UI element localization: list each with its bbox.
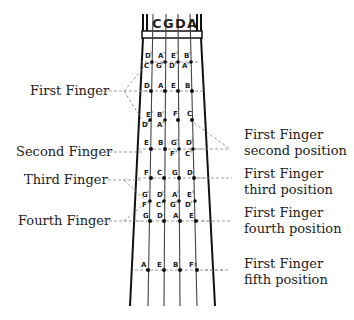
svg-text:♭: ♭ [192,188,194,194]
svg-text:♯: ♯ [147,199,149,205]
svg-text:C: C [187,110,192,118]
svg-text:♯: ♯ [175,148,177,154]
svg-text:♭: ♭ [150,49,152,55]
left-labels: First Finger Second Finger Third Finger … [16,83,113,228]
svg-text:B: B [173,261,178,269]
violin-fingerboard-diagram: C G D A First Finger Second Finger Third… [0,0,354,320]
svg-text:♯: ♯ [147,119,149,125]
string-name-a: A [187,16,197,31]
svg-text:♭: ♭ [177,188,179,194]
row-second-finger: E B G♭ F♯ D♭ C♯ [138,136,205,158]
svg-text:♭: ♭ [189,49,191,55]
svg-text:D: D [187,169,193,177]
row-first-finger: D A E B [140,82,202,93]
label-fourth-position-l1: First Finger [244,205,324,220]
svg-text:♯: ♯ [161,199,163,205]
svg-text:♭: ♭ [176,49,178,55]
svg-text:G: G [143,212,149,220]
svg-text:♭: ♭ [176,136,178,142]
svg-text:♯: ♯ [187,60,189,66]
right-labels: First Finger second position First Finge… [244,127,347,287]
svg-text:A: A [173,212,179,220]
svg-text:D: D [157,212,163,220]
svg-text:♭: ♭ [191,136,193,142]
label-third-position-l2: third position [244,182,334,197]
row-chromatic-2: E♭ D♯ B♭ A♯ F C [142,108,194,129]
label-second-finger: Second Finger [16,144,113,159]
string-name-d: D [175,16,186,31]
svg-text:A: A [141,261,147,269]
row-fourth-finger: G D A E [136,212,212,223]
svg-text:F: F [173,110,178,118]
svg-text:E: E [171,82,176,90]
svg-text:♯: ♯ [174,60,176,66]
string-name-c: C [152,16,162,31]
svg-text:B: B [185,82,190,90]
svg-text:♯: ♯ [190,199,192,205]
svg-text:♯: ♯ [162,119,164,125]
svg-text:G: G [172,169,178,177]
svg-text:♯: ♯ [149,60,151,66]
svg-text:E: E [157,261,162,269]
svg-text:D: D [144,82,150,90]
svg-text:♭: ♭ [151,108,153,114]
label-second-position-l1: First Finger [244,127,324,142]
label-third-position-l1: First Finger [244,166,324,181]
label-fourth-position-l2: fourth position [244,221,342,236]
svg-text:C: C [157,169,162,177]
svg-text:♭: ♭ [147,188,149,194]
string-names: C G D A [152,16,197,31]
svg-text:♭: ♭ [162,108,164,114]
nut [142,31,202,38]
string-g [164,14,166,306]
label-fifth-position-l1: First Finger [244,256,324,271]
svg-text:♯: ♯ [175,199,177,205]
fingerboard-edge-right [201,38,215,306]
label-fifth-position-l2: fifth position [244,272,328,287]
svg-text:♭: ♭ [163,49,165,55]
label-first-finger: First Finger [30,83,110,98]
label-third-finger: Third Finger [24,172,108,187]
svg-text:♭: ♭ [162,188,164,194]
label-fourth-finger: Fourth Finger [18,213,111,228]
svg-text:B: B [158,139,163,147]
string-name-g: G [163,16,174,31]
svg-text:F: F [144,169,149,177]
svg-text:E: E [144,139,149,147]
svg-text:A: A [158,82,164,90]
svg-text:♯: ♯ [161,60,163,66]
label-second-position-l2: second position [244,143,347,158]
svg-text:F♯: F♯ [189,261,197,269]
svg-text:E: E [189,212,194,220]
svg-text:♯: ♯ [190,148,192,154]
